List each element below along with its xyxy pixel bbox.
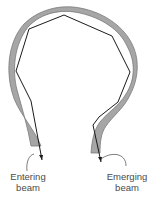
entering-label-line2: beam [8, 182, 48, 193]
entering-label-line1: Entering [8, 171, 48, 182]
emerging-label-line1: Emerging [104, 171, 150, 182]
optical-fiber [9, 7, 137, 153]
entering-arrow-icon [39, 155, 43, 160]
emerging-beam-label: Emerging beam [104, 171, 150, 193]
emerging-arrow-icon [98, 157, 102, 162]
entering-beam-label: Entering beam [8, 171, 48, 193]
entering-leader-line [27, 154, 34, 171]
emerging-leader-line [101, 154, 126, 166]
emerging-label-line2: beam [104, 182, 150, 193]
